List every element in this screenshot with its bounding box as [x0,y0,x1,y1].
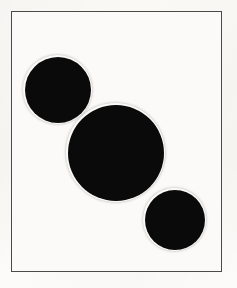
circle-center [68,105,164,201]
circle-bottom-right [145,190,205,250]
figure-canvas [0,0,237,288]
circle-top-left [25,57,91,123]
frame-border [11,11,222,272]
